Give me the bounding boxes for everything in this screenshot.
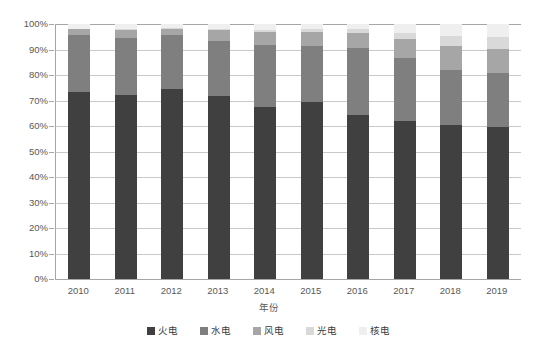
bar-stack[interactable] <box>208 24 230 279</box>
x-axis-title: 年份 <box>0 300 537 314</box>
bar-stack[interactable] <box>115 24 137 279</box>
bar-segment[interactable] <box>254 32 276 46</box>
bar-segment[interactable] <box>208 41 230 97</box>
legend-item[interactable]: 火电 <box>147 326 178 336</box>
plot-area <box>55 24 521 280</box>
y-axis-tick-mark <box>49 126 54 127</box>
y-axis: 0%10%20%30%40%50%60%70%80%90%100% <box>0 24 48 279</box>
y-axis-tick-label: 80% <box>6 70 48 80</box>
bar-segment[interactable] <box>301 102 323 279</box>
bar-segment[interactable] <box>347 48 369 115</box>
y-axis-tick-mark <box>49 50 54 51</box>
bar-segment[interactable] <box>161 89 183 279</box>
legend-item[interactable]: 核电 <box>359 326 390 336</box>
chart-container: 0%10%20%30%40%50%60%70%80%90%100% 201020… <box>0 0 537 353</box>
y-axis-tick-mark <box>49 101 54 102</box>
x-axis-tick-label: 2015 <box>288 285 335 296</box>
legend-swatch-icon <box>253 327 261 335</box>
y-axis-tick-label: 30% <box>6 198 48 208</box>
y-axis-tick-label: 100% <box>6 19 48 29</box>
y-axis-tick-mark <box>49 177 54 178</box>
legend-swatch-icon <box>306 327 314 335</box>
y-axis-tick-label: 70% <box>6 96 48 106</box>
bar-segment[interactable] <box>115 95 137 279</box>
bar-segment[interactable] <box>394 33 416 40</box>
y-axis-tick-mark <box>49 24 54 25</box>
bar-segment[interactable] <box>254 45 276 107</box>
bar-segment[interactable] <box>394 39 416 58</box>
bar-segment[interactable] <box>301 32 323 46</box>
x-axis-tick-label: 2014 <box>241 285 288 296</box>
x-axis-tick-label: 2011 <box>102 285 149 296</box>
chart-legend: 火电水电风电光电核电 <box>0 326 537 336</box>
legend-swatch-icon <box>359 327 367 335</box>
bar-stack[interactable] <box>68 24 90 279</box>
legend-label: 光电 <box>317 326 337 336</box>
y-axis-tick-label: 90% <box>6 45 48 55</box>
y-axis-tick-label: 20% <box>6 223 48 233</box>
y-axis-tick-label: 50% <box>6 147 48 157</box>
y-axis-tick-label: 0% <box>6 274 48 284</box>
bar-stack[interactable] <box>347 24 369 279</box>
bar-stack[interactable] <box>161 24 183 279</box>
bar-stack[interactable] <box>254 24 276 279</box>
x-axis-tick-label: 2016 <box>334 285 381 296</box>
bar-segment[interactable] <box>68 92 90 279</box>
bar-segment[interactable] <box>440 36 462 46</box>
x-axis-tick-label: 2019 <box>474 285 521 296</box>
legend-item[interactable]: 水电 <box>200 326 231 336</box>
bar-segment[interactable] <box>208 96 230 279</box>
bar-segment[interactable] <box>394 24 416 33</box>
bar-segment[interactable] <box>347 33 369 48</box>
bar-segment[interactable] <box>115 30 137 38</box>
x-axis-tick-label: 2013 <box>195 285 242 296</box>
bar-stack[interactable] <box>487 24 509 279</box>
bar-segment[interactable] <box>440 70 462 125</box>
legend-swatch-icon <box>147 327 155 335</box>
legend-item[interactable]: 风电 <box>253 326 284 336</box>
y-axis-tick-mark <box>49 75 54 76</box>
x-axis-tick-label: 2017 <box>381 285 428 296</box>
bar-segment[interactable] <box>161 29 183 36</box>
legend-swatch-icon <box>200 327 208 335</box>
bar-segment[interactable] <box>487 49 509 74</box>
y-axis-tick-mark <box>49 279 54 280</box>
bar-segment[interactable] <box>347 115 369 279</box>
y-axis-tick-mark <box>49 203 54 204</box>
bar-segment[interactable] <box>254 107 276 279</box>
x-axis-tick-label: 2018 <box>427 285 474 296</box>
bar-segment[interactable] <box>487 37 509 49</box>
x-axis-tick-label: 2012 <box>148 285 195 296</box>
legend-label: 水电 <box>211 326 231 336</box>
bar-segment[interactable] <box>394 121 416 279</box>
bar-segment[interactable] <box>394 58 416 120</box>
y-axis-tick-mark <box>49 254 54 255</box>
bar-segment[interactable] <box>68 35 90 92</box>
bar-segment[interactable] <box>440 125 462 279</box>
bar-segment[interactable] <box>487 127 509 279</box>
y-axis-tick-mark <box>49 228 54 229</box>
legend-label: 核电 <box>370 326 390 336</box>
bar-segment[interactable] <box>161 35 183 89</box>
bar-segment[interactable] <box>440 24 462 35</box>
bar-segment[interactable] <box>487 73 509 127</box>
bar-segment[interactable] <box>301 46 323 101</box>
bar-segment[interactable] <box>115 38 137 96</box>
bar-segment[interactable] <box>440 46 462 70</box>
legend-item[interactable]: 光电 <box>306 326 337 336</box>
bar-stack[interactable] <box>301 24 323 279</box>
y-axis-tick-mark <box>49 152 54 153</box>
bar-stack[interactable] <box>394 24 416 279</box>
legend-label: 火电 <box>158 326 178 336</box>
y-axis-tick-label: 10% <box>6 249 48 259</box>
bar-segment[interactable] <box>208 30 230 40</box>
x-axis-tick-label: 2010 <box>55 285 102 296</box>
legend-label: 风电 <box>264 326 284 336</box>
bar-segment[interactable] <box>487 24 509 37</box>
y-axis-tick-label: 60% <box>6 121 48 131</box>
bar-stack[interactable] <box>440 24 462 279</box>
y-axis-tick-label: 40% <box>6 172 48 182</box>
